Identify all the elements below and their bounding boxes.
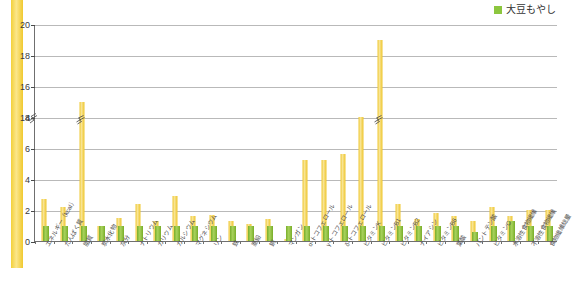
bar-group[interactable] bbox=[259, 25, 278, 241]
x-label-cell: 炭水化物 bbox=[91, 243, 110, 298]
y-tick-label: 6 bbox=[25, 145, 30, 154]
bar-group[interactable] bbox=[296, 25, 315, 241]
x-axis-labels: エネルギー（kcal）たんぱく質脂質炭水化物灰分ナトリウムカリウムカルシウムマグ… bbox=[35, 243, 558, 298]
bar-group[interactable] bbox=[72, 25, 91, 241]
bar-group[interactable] bbox=[277, 25, 296, 241]
x-label-cell: 食物繊維総量 bbox=[539, 243, 558, 298]
bar-group[interactable] bbox=[165, 25, 184, 241]
left-decorative-strip bbox=[11, 0, 23, 268]
bar-group[interactable] bbox=[501, 25, 520, 241]
x-label-cell: 葉酸 bbox=[446, 243, 465, 298]
x-label-cell: γ-トコフェロール bbox=[315, 243, 334, 298]
bar-group[interactable] bbox=[221, 25, 240, 241]
bar-group[interactable] bbox=[426, 25, 445, 241]
x-label-cell: ナイアシン bbox=[408, 243, 427, 298]
x-label-cell: ナトリウム bbox=[128, 243, 147, 298]
x-label-cell: 灰分 bbox=[110, 243, 129, 298]
bar-group[interactable] bbox=[110, 25, 129, 241]
bar-group[interactable] bbox=[184, 25, 203, 241]
y-tick-label: 20 bbox=[20, 21, 30, 30]
x-label-cell: ビタミンB2 bbox=[390, 243, 409, 298]
chart-legend: 大豆もやし bbox=[494, 3, 556, 16]
x-label-cell: カリウム bbox=[147, 243, 166, 298]
x-label-cell: ビタミンC bbox=[483, 243, 502, 298]
x-label-cell: 脂質 bbox=[72, 243, 91, 298]
y-tick-label: 0 bbox=[25, 238, 30, 247]
bar-series-container bbox=[35, 25, 557, 241]
y-tick-label: 18 bbox=[20, 52, 30, 61]
y-tick-label: 16 bbox=[20, 83, 30, 92]
y-tick-label: 14 bbox=[20, 114, 30, 123]
x-label-cell: 水溶性食物繊維 bbox=[502, 243, 521, 298]
bar-reference[interactable] bbox=[377, 40, 382, 242]
y-tick-label: 4 bbox=[25, 176, 30, 185]
x-label-cell: パントテン酸 bbox=[464, 243, 483, 298]
bar-group[interactable] bbox=[389, 25, 408, 241]
x-label-cell: ビタミンK bbox=[352, 243, 371, 298]
x-label-cell: δ-トコフェロール bbox=[334, 243, 353, 298]
x-label-cell: ビタミンB1 bbox=[371, 243, 390, 298]
y-tick-label: 2 bbox=[25, 207, 30, 216]
bar-group[interactable] bbox=[371, 25, 390, 241]
bar-group[interactable] bbox=[91, 25, 110, 241]
x-label-cell: たんぱく質 bbox=[54, 243, 73, 298]
x-label-cell: 亜鉛 bbox=[240, 243, 259, 298]
plot-area: 0246814161820 bbox=[34, 25, 557, 242]
x-label-cell: カルシウム bbox=[166, 243, 185, 298]
bar-group[interactable] bbox=[35, 25, 54, 241]
bar-group[interactable] bbox=[482, 25, 501, 241]
bar-group[interactable] bbox=[128, 25, 147, 241]
bar-group[interactable] bbox=[147, 25, 166, 241]
x-label-cell: リン bbox=[203, 243, 222, 298]
x-label-cell: 不溶性食物繊維 bbox=[520, 243, 539, 298]
x-label-cell: マンガン bbox=[278, 243, 297, 298]
legend-swatch-soybean-sprout bbox=[494, 6, 502, 14]
bar-group[interactable] bbox=[408, 25, 427, 241]
x-label-cell: 銅 bbox=[259, 243, 278, 298]
x-label-cell: α-トコフェロール bbox=[296, 243, 315, 298]
x-label-cell: マグネシウム bbox=[184, 243, 203, 298]
x-label-cell: ビタミンB6 bbox=[427, 243, 446, 298]
bar-group[interactable] bbox=[520, 25, 539, 241]
bar-group[interactable] bbox=[445, 25, 464, 241]
x-label-cell: エネルギー（kcal） bbox=[35, 243, 54, 298]
bar-group[interactable] bbox=[240, 25, 259, 241]
bar-group[interactable] bbox=[464, 25, 483, 241]
legend-label-soybean-sprout: 大豆もやし bbox=[506, 5, 556, 15]
x-label-cell: 鉄 bbox=[222, 243, 241, 298]
bar-group[interactable] bbox=[203, 25, 222, 241]
